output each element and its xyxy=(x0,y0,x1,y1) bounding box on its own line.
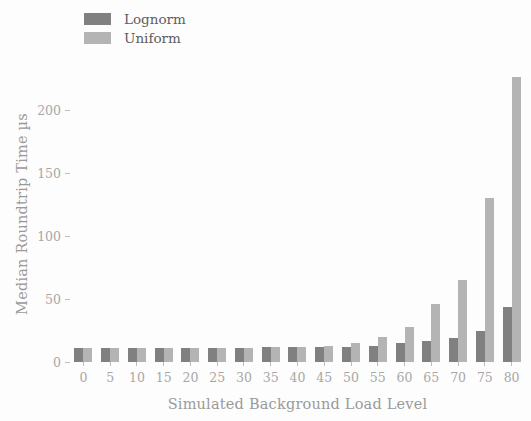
bar-uniform xyxy=(137,348,146,362)
y-tick-label: 150 xyxy=(37,166,61,181)
bar-group xyxy=(257,66,284,362)
bar-uniform xyxy=(378,337,387,362)
x-tick-mark xyxy=(431,362,432,366)
bar-group xyxy=(70,66,97,362)
x-tick: 60 xyxy=(392,362,418,385)
x-tick-mark xyxy=(110,362,111,366)
bar-group xyxy=(391,66,418,362)
plot-area xyxy=(70,66,525,362)
bar-group xyxy=(498,66,525,362)
x-tick: 20 xyxy=(177,362,203,385)
bar-lognorm xyxy=(315,347,324,362)
bar-uniform xyxy=(217,348,226,362)
bar-group xyxy=(124,66,151,362)
bar-uniform xyxy=(190,348,199,362)
x-tick-mark xyxy=(458,362,459,366)
bar-lognorm xyxy=(503,307,512,362)
bar-group xyxy=(284,66,311,362)
bar-uniform xyxy=(512,77,521,362)
bar-lognorm xyxy=(262,347,271,362)
bar-lognorm xyxy=(288,347,297,362)
bar-lognorm xyxy=(422,341,431,362)
x-tick-mark xyxy=(270,362,271,366)
x-tick: 25 xyxy=(204,362,230,385)
bar-lognorm xyxy=(101,348,110,362)
bar-group xyxy=(338,66,365,362)
x-tick-label: 80 xyxy=(504,370,520,385)
legend-swatch-uniform xyxy=(84,32,111,44)
x-tick-label: 70 xyxy=(450,370,466,385)
chart-legend: Lognorm Uniform xyxy=(84,12,186,45)
x-tick: 70 xyxy=(445,362,471,385)
x-tick-mark xyxy=(377,362,378,366)
x-tick-label: 5 xyxy=(106,370,114,385)
x-tick-mark xyxy=(217,362,218,366)
bar-uniform xyxy=(431,304,440,362)
x-tick: 40 xyxy=(285,362,311,385)
bar-lognorm xyxy=(208,348,217,362)
bar-uniform xyxy=(405,327,414,362)
x-tick-label: 30 xyxy=(236,370,252,385)
bar-group xyxy=(204,66,231,362)
legend-swatch-lognorm xyxy=(84,13,111,25)
bar-lognorm xyxy=(342,347,351,362)
x-tick-mark xyxy=(243,362,244,366)
y-tick: 50 xyxy=(45,292,70,306)
legend-label-uniform: Uniform xyxy=(124,32,181,45)
x-tick-label: 60 xyxy=(397,370,413,385)
x-tick-mark xyxy=(163,362,164,366)
bar-lognorm xyxy=(128,348,137,362)
x-tick-mark xyxy=(297,362,298,366)
bar-lognorm xyxy=(235,348,244,362)
bar-uniform xyxy=(458,280,467,362)
x-tick-mark xyxy=(484,362,485,366)
bar-group xyxy=(150,66,177,362)
x-tick-mark xyxy=(404,362,405,366)
bar-uniform xyxy=(351,343,360,362)
x-tick: 30 xyxy=(231,362,257,385)
x-tick-mark xyxy=(136,362,137,366)
x-tick: 0 xyxy=(70,362,96,385)
x-tick-label: 10 xyxy=(129,370,145,385)
bar-group xyxy=(364,66,391,362)
x-tick: 10 xyxy=(124,362,150,385)
bar-uniform xyxy=(271,347,280,362)
chart-figure: Lognorm Uniform Median Roundtrip Time µs… xyxy=(0,0,531,421)
y-tick-label: 50 xyxy=(45,292,61,307)
x-tick-mark xyxy=(351,362,352,366)
x-tick: 50 xyxy=(338,362,364,385)
y-axis-ticks: 050100150200 xyxy=(0,0,70,421)
bar-lognorm xyxy=(74,348,83,362)
x-tick-label: 25 xyxy=(209,370,225,385)
x-tick-label: 20 xyxy=(182,370,198,385)
x-tick-mark xyxy=(324,362,325,366)
legend-item-lognorm: Lognorm xyxy=(84,12,186,26)
bar-group xyxy=(97,66,124,362)
x-tick: 5 xyxy=(97,362,123,385)
bar-uniform xyxy=(244,348,253,362)
x-tick-mark xyxy=(511,362,512,366)
bar-group xyxy=(177,66,204,362)
bar-lognorm xyxy=(155,348,164,362)
x-tick-mark xyxy=(83,362,84,366)
legend-item-uniform: Uniform xyxy=(84,31,186,45)
x-tick-label: 75 xyxy=(477,370,493,385)
x-tick: 45 xyxy=(311,362,337,385)
x-tick-label: 0 xyxy=(79,370,87,385)
y-tick: 150 xyxy=(37,166,70,180)
y-tick-label: 0 xyxy=(53,355,61,370)
bar-group xyxy=(311,66,338,362)
legend-label-lognorm: Lognorm xyxy=(124,13,186,26)
x-tick: 75 xyxy=(472,362,498,385)
x-tick: 15 xyxy=(151,362,177,385)
x-tick-label: 35 xyxy=(263,370,279,385)
x-tick-label: 45 xyxy=(316,370,332,385)
bar-lognorm xyxy=(369,346,378,362)
bar-uniform xyxy=(297,347,306,362)
bar-uniform xyxy=(83,348,92,362)
x-tick-label: 65 xyxy=(423,370,439,385)
bar-uniform xyxy=(324,346,333,362)
x-axis-title: Simulated Background Load Level xyxy=(70,396,525,412)
y-tick: 0 xyxy=(53,355,70,369)
x-tick: 65 xyxy=(418,362,444,385)
